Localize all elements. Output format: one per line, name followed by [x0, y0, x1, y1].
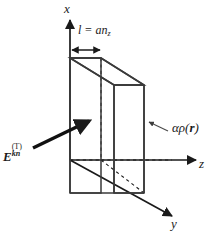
slab-front-face [70, 58, 101, 193]
slab-right-face [114, 85, 144, 193]
density-leader-line [149, 122, 168, 131]
density-label-prefix: αρ( [172, 120, 189, 135]
incident-field-label: E (T) kn [3, 148, 26, 163]
x-axis-label: x [64, 2, 70, 15]
y-axis-label: y [171, 217, 177, 230]
incident-field-symbol: E [3, 149, 12, 164]
z-axis-label: z [199, 157, 204, 170]
incident-field-subscript: kn [12, 150, 20, 158]
thickness-label-subscript: z [107, 29, 110, 38]
slab-geometry-figure: x y z l = anz E (T) kn αρ(r) [0, 0, 218, 237]
density-label: αρ(r) [172, 121, 199, 134]
incident-field-scripts: (T) kn [12, 148, 26, 161]
thickness-label: l = anz [78, 24, 111, 38]
density-label-suffix: ) [194, 120, 198, 135]
thickness-label-base: l = an [78, 23, 107, 37]
